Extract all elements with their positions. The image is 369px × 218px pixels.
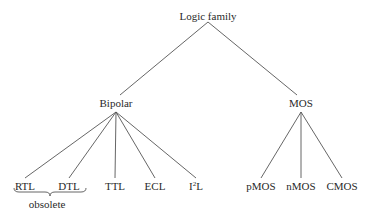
- root-node-logic-family: Logic family: [179, 10, 236, 22]
- obsolete-annotation: obsolete: [29, 198, 66, 210]
- node-mos: MOS: [289, 97, 313, 109]
- logic-family-tree-diagram: Logic family Bipolar MOS RTL DTL TTL ECL…: [0, 0, 369, 218]
- leaf-i2l: I2L: [189, 180, 203, 192]
- edge-bipolar-to-leaf: [116, 112, 155, 178]
- edge-root-to-mos: [208, 22, 297, 95]
- node-bipolar: Bipolar: [100, 97, 133, 109]
- edge-root-to-bipolar: [120, 22, 208, 95]
- leaf-ttl: TTL: [105, 180, 125, 192]
- leaf-ecl: ECL: [145, 180, 166, 192]
- edge-mos-to-leaf: [301, 112, 342, 178]
- leaf-pmos: pMOS: [246, 180, 275, 192]
- edge-mos-to-leaf: [261, 112, 301, 178]
- edge-bipolar-to-leaf: [69, 112, 116, 178]
- edge-bipolar-to-leaf: [25, 112, 116, 178]
- leaf-rtl: RTL: [15, 180, 35, 192]
- edge-bipolar-to-leaf: [116, 112, 196, 178]
- leaf-dtl: DTL: [58, 180, 79, 192]
- i2l-suffix: L: [196, 180, 203, 192]
- edge-bipolar-to-leaf: [115, 112, 116, 178]
- leaf-cmos: CMOS: [326, 180, 357, 192]
- leaf-nmos: nMOS: [286, 180, 315, 192]
